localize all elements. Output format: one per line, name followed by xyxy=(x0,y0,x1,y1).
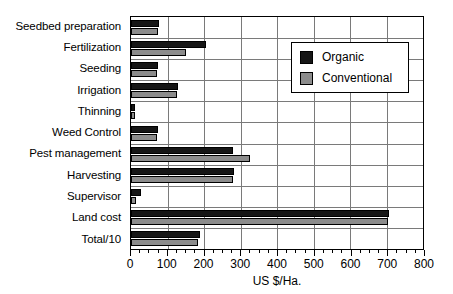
category-label: Pest management xyxy=(0,144,126,165)
x-tick-major xyxy=(351,250,352,256)
bar-group xyxy=(131,17,423,38)
category-label: Weed Control xyxy=(0,122,126,143)
bar-organic xyxy=(131,168,234,175)
bar-organic xyxy=(131,210,389,217)
x-tick-major xyxy=(277,250,278,256)
chart-legend: OrganicConventional xyxy=(291,42,409,93)
x-tick-major xyxy=(387,250,388,256)
x-tick-label: 0 xyxy=(127,257,134,271)
category-label: Seeding xyxy=(0,59,126,80)
category-label: Thinning xyxy=(0,101,126,122)
category-label: Seedbed preparation xyxy=(0,16,126,37)
x-tick-minor xyxy=(249,250,250,253)
x-tick-minor xyxy=(139,250,140,253)
bar-chart: Seedbed preparationFertilizationSeedingI… xyxy=(0,0,453,294)
category-label: Irrigation xyxy=(0,80,126,101)
bar-group xyxy=(131,165,423,186)
bar-conventional xyxy=(131,218,388,225)
bar-conventional xyxy=(131,197,136,204)
x-axis-tick-labels: 0100200300400500600700800 xyxy=(130,257,424,273)
category-axis: Seedbed preparationFertilizationSeedingI… xyxy=(0,16,126,250)
bar-conventional xyxy=(131,28,158,35)
x-tick-minor xyxy=(194,250,195,253)
category-label: Land cost xyxy=(0,207,126,228)
legend-label: Organic xyxy=(322,51,364,63)
bar-organic xyxy=(131,62,158,69)
x-tick-minor xyxy=(415,250,416,253)
x-axis-title: US $/Ha. xyxy=(130,274,424,288)
bar-conventional xyxy=(131,91,177,98)
x-tick-minor xyxy=(231,250,232,253)
x-tick-label: 200 xyxy=(193,257,213,271)
bar-conventional xyxy=(131,70,157,77)
bar-organic xyxy=(131,147,233,154)
x-tick-minor xyxy=(185,250,186,253)
bar-conventional xyxy=(131,49,186,56)
x-tick-major xyxy=(314,250,315,256)
legend-swatch-organic xyxy=(300,51,313,64)
x-tick-label: 500 xyxy=(304,257,324,271)
bar-organic xyxy=(131,189,141,196)
x-tick-minor xyxy=(268,250,269,253)
x-tick-minor xyxy=(213,250,214,253)
x-tick-minor xyxy=(295,250,296,253)
bar-organic xyxy=(131,104,135,111)
category-label: Supervisor xyxy=(0,186,126,207)
bar-conventional xyxy=(131,112,135,119)
x-tick-major xyxy=(204,250,205,256)
x-tick-label: 300 xyxy=(230,257,250,271)
bar-organic xyxy=(131,41,206,48)
x-tick-label: 100 xyxy=(157,257,177,271)
bar-conventional xyxy=(131,239,198,246)
bar-conventional xyxy=(131,155,250,162)
x-tick-minor xyxy=(148,250,149,253)
category-label: Fertilization xyxy=(0,37,126,58)
x-tick-minor xyxy=(369,250,370,253)
legend-item: Conventional xyxy=(300,68,408,89)
category-label: Harvesting xyxy=(0,165,126,186)
bar-conventional xyxy=(131,134,157,141)
bar-organic xyxy=(131,126,158,133)
x-tick-minor xyxy=(222,250,223,253)
x-tick-minor xyxy=(406,250,407,253)
bar-group xyxy=(131,144,423,165)
x-tick-major xyxy=(167,250,168,256)
x-tick-minor xyxy=(341,250,342,253)
x-tick-minor xyxy=(286,250,287,253)
bar-group xyxy=(131,228,423,249)
x-tick-major xyxy=(424,250,425,256)
x-tick-major xyxy=(240,250,241,256)
x-axis-ticks xyxy=(130,250,424,257)
legend-swatch-conventional xyxy=(300,72,313,85)
x-tick-minor xyxy=(396,250,397,253)
x-tick-minor xyxy=(158,250,159,253)
x-tick-label: 600 xyxy=(340,257,360,271)
bar-organic xyxy=(131,20,159,27)
bar-organic xyxy=(131,83,178,90)
x-tick-minor xyxy=(305,250,306,253)
bar-group xyxy=(131,122,423,143)
x-tick-label: 800 xyxy=(414,257,434,271)
bar-group xyxy=(131,101,423,122)
category-label: Total/10 xyxy=(0,229,126,250)
x-tick-minor xyxy=(360,250,361,253)
x-tick-minor xyxy=(323,250,324,253)
legend-label: Conventional xyxy=(322,72,392,84)
x-tick-minor xyxy=(378,250,379,253)
bar-conventional xyxy=(131,176,233,183)
x-tick-label: 700 xyxy=(377,257,397,271)
bar-group xyxy=(131,186,423,207)
legend-item: Organic xyxy=(300,47,408,68)
x-tick-minor xyxy=(176,250,177,253)
x-tick-minor xyxy=(332,250,333,253)
bar-group xyxy=(131,207,423,228)
x-tick-label: 400 xyxy=(267,257,287,271)
bar-organic xyxy=(131,231,200,238)
x-tick-minor xyxy=(259,250,260,253)
x-tick-major xyxy=(130,250,131,256)
